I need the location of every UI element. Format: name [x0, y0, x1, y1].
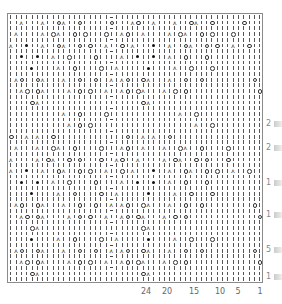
x-axis-label: 20 [162, 287, 172, 296]
y-axis-label: 1 [266, 272, 271, 281]
y-axis-tick [274, 247, 282, 253]
knitting-chart-grid [7, 13, 263, 283]
x-axis-label: 15 [189, 287, 199, 296]
y-axis-tick [274, 121, 282, 127]
y-axis-label: 2 [266, 119, 271, 128]
y-axis-label: 1 [266, 210, 271, 219]
knit-symbol [257, 276, 262, 282]
y-axis-label: 1 [266, 178, 271, 187]
y-axis-tick [274, 180, 282, 186]
x-axis-label: 10 [215, 287, 225, 296]
x-axis-label: 24 [141, 287, 151, 296]
chart-row [8, 276, 262, 282]
x-axis-label: 1 [257, 287, 262, 296]
y-axis-label: 2 [266, 143, 271, 152]
y-axis-tick [274, 274, 282, 280]
y-axis-tick [274, 145, 282, 151]
x-axis-label: 5 [235, 287, 240, 296]
y-axis-label: 5 [266, 245, 271, 254]
y-axis-tick [274, 212, 282, 218]
